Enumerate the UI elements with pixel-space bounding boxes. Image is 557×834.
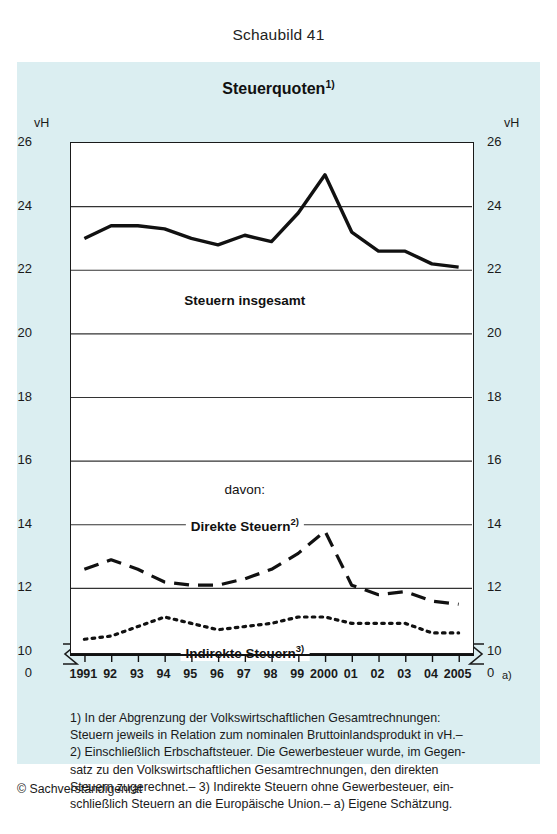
y-axis-zero-left: 0 <box>2 666 32 679</box>
y-axis-tick-label: 24 <box>487 199 517 212</box>
series-caption-direct-text: Direkte Steuern <box>191 518 291 533</box>
y-axis-tick-label: 22 <box>487 262 517 275</box>
x-axis-footnote-marker: a) <box>502 670 512 681</box>
chart-panel: Steuerquoten1) vH vH 101214161820222426 … <box>17 62 540 764</box>
y-axis-tick-label: 12 <box>2 580 32 593</box>
series-line <box>84 531 458 604</box>
chart-title: Steuerquoten1) <box>17 78 540 98</box>
y-axis-tick-label: 24 <box>2 199 32 212</box>
x-axis <box>70 654 474 668</box>
footnote-line: 2) Einschließlich Erbschaftsteuer. Die G… <box>70 744 530 761</box>
x-axis-tick-label: 2005 <box>436 668 480 681</box>
y-axis-tick-label: 10 <box>487 644 517 657</box>
y-axis-tick-label: 20 <box>487 326 517 339</box>
plot-area: Steuern insgesamt davon: Direkte Steuern… <box>70 142 474 654</box>
footnote-line: satz zu den Volkswirtschaftlichen Gesamt… <box>70 762 530 779</box>
series-caption-davon: davon: <box>219 482 270 497</box>
chart-title-text: Steuerquoten <box>222 80 325 97</box>
footnotes: 1) In der Abgrenzung der Volkswirtschaft… <box>70 710 530 813</box>
y-axis-tick-label: 14 <box>2 517 32 530</box>
y-axis-unit-left: vH <box>34 116 49 130</box>
series-caption-total-text: Steuern insgesamt <box>184 293 305 308</box>
y-axis-tick-label: 26 <box>2 135 32 148</box>
y-axis-tick-label: 18 <box>487 390 517 403</box>
copyright-notice: © Sachverständigenrat <box>17 782 142 796</box>
y-axis-tick-label: 18 <box>2 390 32 403</box>
figure-number: Schaubild 41 <box>0 26 557 44</box>
series-line <box>84 175 458 267</box>
y-axis-tick-label: 12 <box>487 580 517 593</box>
chart-title-footnote-marker: 1) <box>325 78 334 90</box>
footnote-line: 1) In der Abgrenzung der Volkswirtschaft… <box>70 710 530 727</box>
y-axis-tick-label: 10 <box>2 644 32 657</box>
y-axis-tick-label: 14 <box>487 517 517 530</box>
series-caption-indirect-marker: 3) <box>296 643 304 654</box>
footnote-line: Steuern jeweils in Relation zum nominale… <box>70 727 530 744</box>
y-axis-tick-label: 22 <box>2 262 32 275</box>
y-axis-tick-label: 16 <box>487 453 517 466</box>
series-caption-direct-marker: 2) <box>290 516 298 527</box>
series-caption-davon-text: davon: <box>224 482 265 497</box>
y-axis-tick-label: 20 <box>2 326 32 339</box>
footnote-line: schließlich Steuern an die Europäische U… <box>70 796 530 813</box>
y-axis-tick-label: 26 <box>487 135 517 148</box>
series-caption-direct: Direkte Steuern2) <box>186 516 304 534</box>
series-caption-total: Steuern insgesamt <box>179 293 310 308</box>
plot-svg <box>71 143 472 652</box>
series-line <box>84 617 458 639</box>
y-axis-tick-label: 16 <box>2 453 32 466</box>
y-axis-unit-right: vH <box>504 116 519 130</box>
